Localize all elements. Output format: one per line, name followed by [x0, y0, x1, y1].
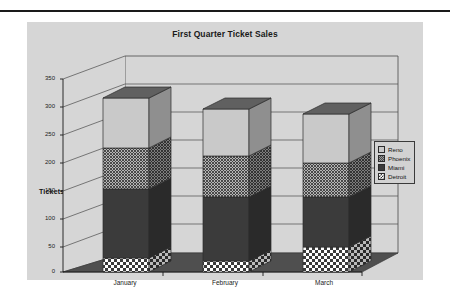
y-tick-label: 0: [31, 268, 55, 275]
legend-label-reno: Reno: [388, 146, 403, 153]
chart-panel: First Quarter Ticket Sales Tickets: [27, 22, 423, 280]
legend-label-miami: Miami: [388, 164, 405, 171]
y-axis: [60, 79, 63, 272]
y-tick-label: 200: [31, 159, 55, 166]
legend-swatch-reno-icon: [378, 146, 385, 153]
y-tick-label: 300: [31, 103, 55, 110]
legend-label-phoenix: Phoenix: [388, 155, 410, 162]
bar-february: [203, 98, 271, 272]
legend-swatch-detroit-icon: [378, 173, 385, 180]
legend-swatch-miami-icon: [378, 164, 385, 171]
y-tick-label: 100: [31, 215, 55, 222]
y-tick-label: 150: [31, 187, 55, 194]
chart-screenshot: First Quarter Ticket Sales Tickets: [0, 0, 450, 305]
x-category-label-february: February: [187, 279, 263, 286]
legend-label-detroit: Detroit: [388, 173, 406, 180]
chart-legend[interactable]: Reno Phoenix Miami Detroit: [374, 141, 415, 184]
y-tick-label: 50: [31, 243, 55, 250]
legend-item-phoenix[interactable]: Phoenix: [378, 154, 410, 162]
y-tick-label: 250: [31, 131, 55, 138]
y-tick-label: 350: [31, 75, 55, 82]
bar-january: [103, 87, 171, 272]
legend-item-detroit[interactable]: Detroit: [378, 172, 410, 180]
x-category-label-march: March: [286, 279, 362, 286]
bar-march: [303, 103, 371, 272]
header-divider-rule: [0, 10, 450, 12]
x-axis: [63, 272, 362, 276]
legend-swatch-phoenix-icon: [378, 155, 385, 162]
legend-item-reno[interactable]: Reno: [378, 145, 410, 153]
plot-area: [27, 22, 423, 280]
x-category-label-january: January: [87, 279, 163, 286]
legend-item-miami[interactable]: Miami: [378, 163, 410, 171]
